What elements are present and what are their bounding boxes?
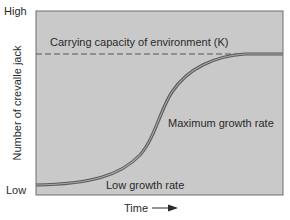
annotation-carrying-capacity: Carrying capacity of environment (K) <box>50 36 229 48</box>
logistic-growth-chart: High Low Number of crevalle jack Carryin… <box>0 0 290 220</box>
annotation-low-growth-rate: Low growth rate <box>106 179 184 191</box>
arrow-right-icon <box>168 205 178 212</box>
y-tick-high: High <box>4 5 27 17</box>
y-axis-label: Number of crevalle jack <box>11 45 23 160</box>
y-tick-low: Low <box>6 184 26 196</box>
x-axis-label: Time <box>124 202 148 214</box>
annotation-maximum-growth-rate: Maximum growth rate <box>168 117 274 129</box>
